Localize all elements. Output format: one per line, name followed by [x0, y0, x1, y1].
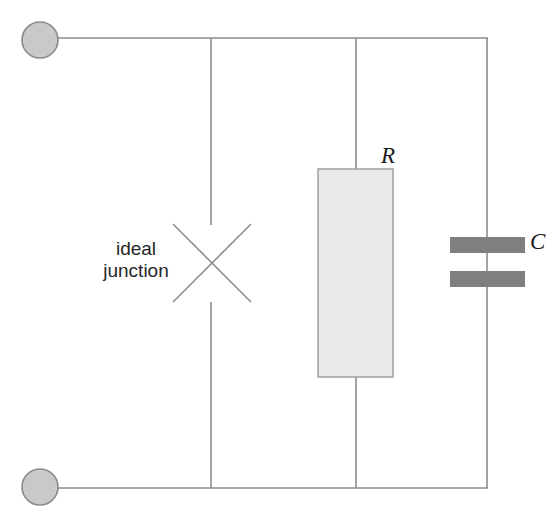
capacitor-plate-bottom — [450, 271, 525, 287]
ideal-junction-label-line2: junction — [88, 260, 184, 282]
ideal-junction-label: ideal junction — [88, 238, 184, 282]
terminal-node-bottom — [22, 469, 58, 505]
terminal-node-top — [22, 22, 58, 58]
capacitor-label: C — [530, 229, 545, 255]
circuit-diagram-canvas: ideal junction R C — [0, 0, 558, 527]
circuit-schematic-svg — [0, 0, 558, 527]
resistor-box — [318, 169, 393, 377]
ideal-junction-label-line1: ideal — [88, 238, 184, 260]
capacitor-plate-top — [450, 237, 525, 253]
resistor-label: R — [381, 143, 395, 169]
